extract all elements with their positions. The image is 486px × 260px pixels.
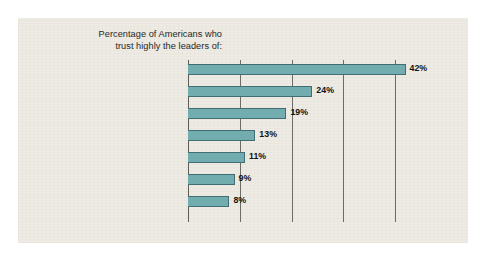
plot-area: Small business 42% Religious institution… xyxy=(18,18,468,243)
bar-value-label: 13% xyxy=(259,129,277,140)
gridline-40 xyxy=(395,60,396,222)
bar-federal-government xyxy=(188,196,229,207)
bar-value-label: 8% xyxy=(233,195,246,206)
bar-small-business xyxy=(188,64,406,75)
bar-value-label: 11% xyxy=(249,151,266,162)
chart-figure: Percentage of Americans who trust highly… xyxy=(0,0,486,260)
bar-big-business xyxy=(188,108,286,119)
bar-value-label: 42% xyxy=(410,63,428,74)
gridline-30 xyxy=(343,60,344,222)
bar-value-label: 19% xyxy=(290,107,308,118)
bar-state-and-local-governments xyxy=(188,174,235,185)
gridline-20 xyxy=(292,60,293,222)
chart-panel: Percentage of Americans who trust highly… xyxy=(18,18,468,243)
bar-republicans-in-congress xyxy=(188,130,255,141)
bar-value-label: 24% xyxy=(316,85,334,96)
bar-value-label: 9% xyxy=(239,173,252,184)
bar-democrats-in-congress xyxy=(188,152,245,163)
bar-religious-institutions xyxy=(188,86,312,97)
